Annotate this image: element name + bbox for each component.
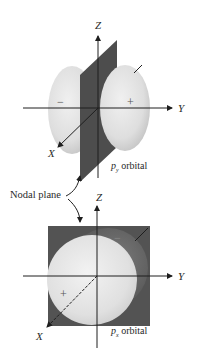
px-positive-sign: + <box>60 288 67 300</box>
py-x-axis-label: X <box>48 148 55 159</box>
py-y-axis-label: Y <box>178 103 184 114</box>
orbital-figure: Z Y X − + py orbital Nodal plane Z Y X +… <box>0 0 199 363</box>
px-x-axis-label: X <box>36 331 43 342</box>
nodal-plane-arrow-down <box>68 199 80 222</box>
nodal-plane-arrow-up <box>66 176 80 196</box>
py-negative-sign: − <box>57 96 64 108</box>
py-orbital-suffix: orbital <box>119 160 148 171</box>
px-orbital-label: px orbital <box>111 326 147 338</box>
py-positive-sign: + <box>127 96 134 108</box>
top-panel-py-orbital <box>23 36 172 182</box>
py-z-axis-label: Z <box>95 20 101 31</box>
py-orbital-label: py orbital <box>111 161 147 173</box>
px-orbital-suffix: orbital <box>119 325 148 336</box>
px-positive-lobe <box>47 235 137 325</box>
nodal-plane-pointers <box>66 176 80 222</box>
px-y-axis-label: Y <box>178 271 184 282</box>
nodal-plane-label: Nodal plane <box>10 190 61 201</box>
bottom-panel-px-orbital <box>23 206 172 348</box>
px-z-axis-label: Z <box>96 192 102 203</box>
orbital-diagram-svg <box>0 0 199 363</box>
px-negative-sign: − <box>114 232 121 244</box>
